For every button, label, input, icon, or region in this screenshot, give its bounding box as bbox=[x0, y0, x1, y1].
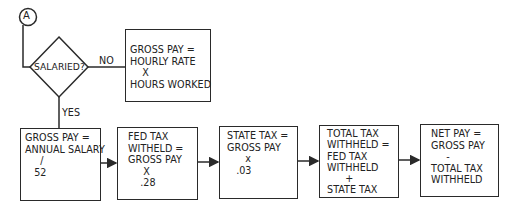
connector-label: A bbox=[23, 10, 30, 21]
box-line: WITHHELD = bbox=[324, 139, 394, 150]
box-line: / bbox=[25, 155, 96, 167]
box-line: WITHELD = bbox=[122, 143, 193, 155]
box-line: NET PAY = bbox=[425, 128, 494, 140]
box-line: GROSS PAY bbox=[425, 140, 494, 152]
edge-label-no: NO bbox=[99, 55, 114, 66]
box-line: X bbox=[122, 166, 193, 178]
box-line: 52 bbox=[25, 167, 96, 179]
box-line: GROSS PAY = bbox=[25, 132, 96, 144]
box-line: GROSS PAY bbox=[122, 154, 193, 166]
box-line: - bbox=[425, 151, 494, 163]
state-tax-box: STATE TAX = GROSS PAY x .03 bbox=[219, 126, 298, 199]
box-line: .03 bbox=[224, 165, 293, 177]
net-pay-box: NET PAY = GROSS PAY - TOTAL TAX WITHHELD bbox=[420, 124, 499, 197]
box-line: HOURS WORKED bbox=[130, 79, 206, 91]
salary-gross-pay-box: GROSS PAY = ANNUAL SALARY / 52 bbox=[20, 128, 101, 201]
box-line: TOTAL TAX bbox=[425, 163, 494, 175]
box-line: TOTAL TAX bbox=[324, 128, 394, 139]
box-line: HOURLY RATE bbox=[130, 56, 206, 68]
box-line: GROSS PAY bbox=[224, 142, 293, 154]
box-line: GROSS PAY = bbox=[130, 44, 206, 56]
box-line: FED TAX bbox=[324, 151, 394, 162]
box-line: + bbox=[324, 173, 394, 184]
box-line: WITHHELD bbox=[324, 162, 394, 173]
decision-label: SALARIED? bbox=[34, 61, 85, 72]
box-line: FED TAX bbox=[122, 131, 193, 143]
box-line: STATE TAX bbox=[324, 184, 394, 195]
box-line: STATE TAX = bbox=[224, 130, 293, 142]
box-line: .28 bbox=[122, 177, 193, 189]
box-line: ANNUAL SALARY bbox=[25, 144, 96, 156]
box-line: X bbox=[130, 67, 206, 79]
edge-label-yes: YES bbox=[62, 107, 80, 118]
fed-tax-box: FED TAX WITHELD = GROSS PAY X .28 bbox=[117, 127, 198, 200]
hourly-gross-pay-box: GROSS PAY = HOURLY RATE X HOURS WORKED bbox=[125, 29, 211, 102]
box-line: x bbox=[224, 153, 293, 165]
total-tax-box: TOTAL TAX WITHHELD = FED TAX WITHHELD + … bbox=[319, 125, 399, 198]
box-line: WITHHELD bbox=[425, 174, 494, 186]
